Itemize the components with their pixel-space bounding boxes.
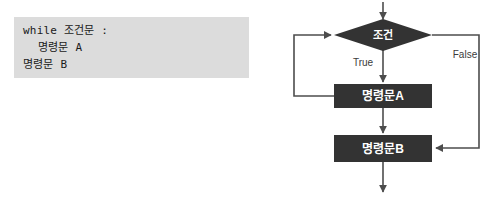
edge-label-false: False [453, 49, 478, 60]
node-condition-label: 조건 [373, 28, 393, 41]
code-block: while 조건문 : 명령문 A 명령문 B [14, 17, 249, 78]
edge-loopback [294, 35, 334, 96]
node-condition: 조건 [334, 19, 432, 51]
node-statement-b-label: 명령문B [362, 142, 404, 156]
edge-true: True [353, 50, 383, 82]
code-line: 명령문 B [23, 56, 249, 73]
node-statement-a: 명령문A [334, 84, 432, 108]
edge-false: False [432, 35, 479, 148]
node-statement-a-label: 명령문A [362, 89, 404, 103]
code-line: while 조건문 : [23, 22, 249, 39]
code-line: 명령문 A [23, 39, 249, 56]
flowchart-diagram: True False 조건 명령문A [280, 0, 498, 207]
node-statement-b: 명령문B [334, 135, 432, 162]
edge-label-true: True [353, 57, 374, 68]
